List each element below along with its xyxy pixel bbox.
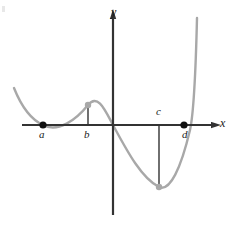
point-label-d: d (182, 129, 188, 140)
point-label-b: b (84, 129, 90, 140)
function-graph-figure: y x a b c d (0, 0, 233, 225)
point-dot-b (85, 102, 91, 108)
graph-canvas (0, 0, 233, 225)
point-label-a: a (39, 129, 45, 140)
x-axis-label: x (220, 117, 225, 129)
point-dot-c (156, 184, 162, 190)
y-axis-label: y (111, 6, 116, 18)
point-label-c: c (156, 106, 161, 117)
function-curve (14, 18, 197, 188)
